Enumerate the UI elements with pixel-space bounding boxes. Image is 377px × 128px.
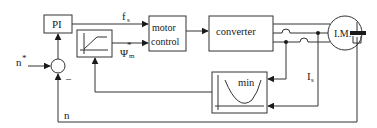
min-feedback-arrow [95,58,212,92]
minus-sign: – [65,73,72,84]
tap-dot-b [284,40,288,44]
freq-subscript: s [127,16,130,24]
pi-label: PI [52,18,62,30]
converter-label: converter [216,26,256,37]
flux-ramp-block [77,30,112,57]
flux-ref-superscript: * [127,40,132,50]
freq-label: f [122,10,126,22]
motor-control-label-1: motor [152,22,177,33]
motor-label: I.M. [334,28,351,39]
speed-feedback-label: n [64,109,70,121]
speed-ref-superscript: * [22,53,27,63]
flux-ref-subscript: m [129,52,135,60]
min-label: min [238,77,255,88]
control-block-diagram: PI motor control converter I.M. min n * … [0,0,377,128]
motor-shaft [350,31,366,35]
current-subscript: s [311,76,314,84]
summing-junction [51,59,65,73]
motor-control-label-2: control [151,36,180,47]
tap-dot-a [316,31,320,35]
